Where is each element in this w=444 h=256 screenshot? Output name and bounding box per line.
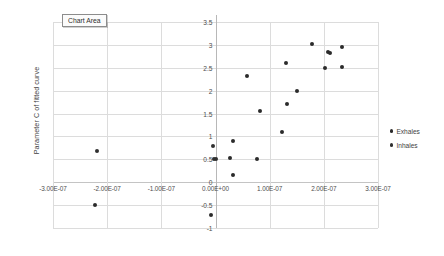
data-point[interactable] xyxy=(245,74,249,78)
y-axis-tick-label: 3 xyxy=(209,41,213,48)
y-axis-tick-label: 2.5 xyxy=(203,64,212,71)
data-point[interactable] xyxy=(255,157,259,161)
x-axis-tick-label: -1.00E-07 xyxy=(148,185,175,192)
y-axis-line xyxy=(216,15,217,228)
gridline-vertical xyxy=(107,22,108,228)
chart-area-tooltip: Chart Area xyxy=(62,14,107,27)
x-axis-tick-label: 1.00E-07 xyxy=(257,185,282,192)
legend-item-label: Exhales xyxy=(396,128,419,135)
data-point[interactable] xyxy=(231,139,235,143)
y-axis-title: Parameter C of fitted curve xyxy=(32,31,41,191)
legend-item[interactable]: Exhales xyxy=(390,124,444,138)
legend-marker-icon xyxy=(390,143,393,146)
x-axis-tick-label: -3.00E-07 xyxy=(39,185,66,192)
y-axis-tick-label: 3.5 xyxy=(203,19,212,26)
legend-item[interactable]: Inhales xyxy=(390,138,444,152)
scatter-chart: Parameter C of fitted curve -1-0.500.511… xyxy=(0,0,444,256)
data-point[interactable] xyxy=(214,157,218,161)
y-axis-tick-label: 1 xyxy=(209,133,213,140)
plot-area[interactable]: -1-0.500.511.522.533.5-3.00E-07-2.00E-07… xyxy=(53,22,378,228)
data-point[interactable] xyxy=(228,156,232,160)
data-point[interactable] xyxy=(258,109,262,113)
data-point[interactable] xyxy=(95,149,99,153)
y-axis-tick-label: 0.5 xyxy=(203,156,212,163)
y-axis-tick-label: 2 xyxy=(209,87,213,94)
data-point[interactable] xyxy=(310,42,314,46)
data-point[interactable] xyxy=(231,173,235,177)
x-axis-tick-label: 0.00E+00 xyxy=(202,185,229,192)
x-axis-tick-label: 2.00E-07 xyxy=(311,185,336,192)
gridline-vertical xyxy=(378,22,379,228)
gridline-vertical xyxy=(53,22,54,228)
x-axis-tick-label: 3.00E-07 xyxy=(365,185,390,192)
gridline-vertical xyxy=(161,22,162,228)
gridline-vertical xyxy=(324,22,325,228)
data-point[interactable] xyxy=(328,51,332,55)
gridline-vertical xyxy=(270,22,271,228)
data-point[interactable] xyxy=(211,144,215,148)
data-point[interactable] xyxy=(285,102,289,106)
chart-legend[interactable]: ExhalesInhales xyxy=(390,124,444,152)
data-point[interactable] xyxy=(340,45,344,49)
legend-marker-icon xyxy=(390,129,393,132)
data-point[interactable] xyxy=(93,203,97,207)
legend-item-label: Inhales xyxy=(396,142,417,149)
y-axis-tick-label: -0.5 xyxy=(201,202,212,209)
data-point[interactable] xyxy=(209,213,213,217)
y-axis-tick-label: -1 xyxy=(207,225,213,232)
x-axis-tick-label: -2.00E-07 xyxy=(93,185,120,192)
data-point[interactable] xyxy=(340,65,344,69)
data-point[interactable] xyxy=(323,66,327,70)
gridline-horizontal xyxy=(53,228,378,229)
data-point[interactable] xyxy=(295,89,299,93)
data-point[interactable] xyxy=(284,61,288,65)
data-point[interactable] xyxy=(280,130,284,134)
y-axis-tick-label: 1.5 xyxy=(203,110,212,117)
